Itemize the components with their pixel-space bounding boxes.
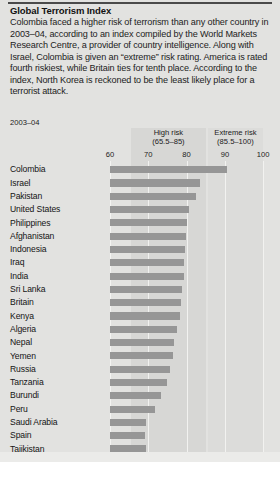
bar-row: Afghanistan	[0, 230, 280, 243]
chart-figure: Global Terrorism Index Colombia faced a …	[0, 0, 280, 462]
x-tick-70: 70	[144, 150, 152, 159]
bar	[110, 233, 186, 240]
bar	[110, 339, 174, 346]
bar	[110, 326, 177, 333]
bar-row: Philippines	[0, 217, 280, 230]
band-range: (85.5–100)	[200, 137, 272, 146]
bar-row: Peru	[0, 403, 280, 416]
bar	[110, 259, 184, 266]
band-header-extreme-risk: Extreme risk(85.5–100)	[200, 128, 272, 147]
country-label: India	[10, 271, 28, 281]
bar	[110, 219, 187, 226]
bar-row: United States	[0, 204, 280, 217]
country-label: Burundi	[10, 390, 39, 400]
bar-row: Burundi	[0, 390, 280, 403]
x-tick-90: 90	[221, 150, 229, 159]
bar-rows: ColombiaIsraelPakistanUnited StatesPhili…	[0, 164, 280, 457]
bar	[110, 246, 185, 253]
bar-row: Algeria	[0, 324, 280, 337]
bar-row: Britain	[0, 297, 280, 310]
country-label: Britain	[10, 297, 34, 307]
bar-row: Spain	[0, 430, 280, 443]
bar	[110, 366, 170, 373]
country-label: Indonesia	[10, 244, 46, 254]
x-tick-100: 100	[257, 150, 270, 159]
country-label: Colombia	[10, 164, 46, 174]
bar-row: Colombia	[0, 164, 280, 177]
country-label: Israel	[10, 178, 30, 188]
country-label: Russia	[10, 364, 36, 374]
country-label: United States	[10, 204, 60, 214]
bar	[110, 299, 181, 306]
bar	[110, 273, 184, 280]
bar	[110, 352, 173, 359]
plot-area: High risk(65.5–85)Extreme risk(85.5–100)…	[0, 128, 280, 458]
bar-row: Israel	[0, 177, 280, 190]
top-rule	[8, 2, 272, 4]
bar-row: India	[0, 270, 280, 283]
country-label: Yemen	[10, 351, 36, 361]
x-tick-60: 60	[106, 150, 114, 159]
x-tick-80: 80	[182, 150, 190, 159]
country-label: Tanzania	[10, 377, 44, 387]
country-label: Algeria	[10, 324, 36, 334]
country-label: Saudi Arabia	[10, 417, 58, 427]
bar-row: Nepal	[0, 337, 280, 350]
bar	[110, 193, 196, 200]
country-label: Spain	[10, 430, 31, 440]
bar-row: Tanzania	[0, 377, 280, 390]
article-body: Colombia faced a higher risk of terroris…	[10, 17, 272, 98]
bar-row: Iraq	[0, 257, 280, 270]
bar	[110, 206, 189, 213]
bar	[110, 166, 227, 173]
bar-row: Yemen	[0, 350, 280, 363]
bar	[110, 286, 182, 293]
bar	[110, 419, 146, 426]
band-name: Extreme risk	[200, 128, 272, 137]
country-label: Nepal	[10, 337, 32, 347]
country-label: Philippines	[10, 218, 50, 228]
bar-row: Pakistan	[0, 191, 280, 204]
bar	[110, 312, 180, 319]
country-label: Peru	[10, 404, 28, 414]
page-title: Global Terrorism Index	[10, 5, 111, 16]
country-label: Afghanistan	[10, 231, 54, 241]
bar-row: Indonesia	[0, 244, 280, 257]
bar-row: Saudi Arabia	[0, 417, 280, 430]
bar-row: Sri Lanka	[0, 284, 280, 297]
bar	[110, 179, 200, 186]
country-label: Iraq	[10, 257, 24, 267]
bar	[110, 406, 155, 413]
period-label: 2003–04	[10, 118, 40, 127]
country-label: Sri Lanka	[10, 284, 45, 294]
bar-row: Kenya	[0, 310, 280, 323]
bar-row: Russia	[0, 363, 280, 376]
figure-footer	[0, 452, 280, 462]
bar	[110, 392, 161, 399]
country-label: Pakistan	[10, 191, 42, 201]
country-label: Kenya	[10, 311, 34, 321]
bar	[110, 432, 145, 439]
bar	[110, 379, 167, 386]
